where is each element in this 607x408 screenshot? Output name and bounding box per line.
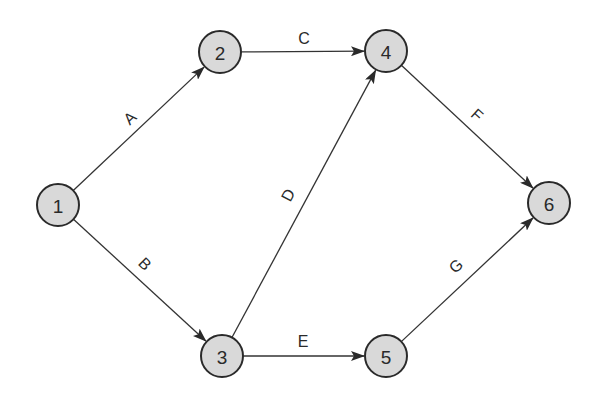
edge-label: E [298, 333, 309, 350]
node-label: 4 [381, 42, 392, 63]
edge-f: F [401, 65, 533, 188]
node-2: 2 [199, 31, 241, 73]
edge-label: A [120, 108, 140, 128]
edge-d: D [232, 70, 376, 337]
node-1: 1 [37, 184, 79, 226]
node-3: 3 [201, 335, 243, 377]
edge-arrow [73, 219, 205, 341]
node-6: 6 [528, 182, 570, 224]
network-diagram: ABCDEFG 123456 [0, 0, 607, 408]
node-label: 3 [217, 347, 228, 368]
edge-arrow [73, 67, 204, 190]
edge-label: D [278, 186, 298, 204]
edge-g: G [401, 218, 533, 342]
node-label: 1 [53, 196, 64, 217]
edge-c: C [241, 30, 364, 52]
edge-label: F [468, 105, 487, 124]
edge-arrow [401, 65, 533, 188]
edge-label: G [446, 256, 467, 277]
edge-arrow [401, 218, 533, 342]
edge-label: B [135, 254, 155, 274]
edge-arrow [241, 51, 364, 52]
edge-e: E [243, 333, 364, 357]
edge-arrow [232, 70, 376, 337]
node-5: 5 [365, 335, 407, 377]
node-4: 4 [365, 30, 407, 72]
node-label: 2 [215, 43, 226, 64]
node-label: 6 [544, 194, 555, 215]
node-label: 5 [381, 347, 392, 368]
edge-a: A [73, 67, 204, 190]
edge-b: B [73, 219, 205, 341]
edges-layer: ABCDEFG [73, 30, 533, 357]
edge-label: C [298, 30, 310, 47]
